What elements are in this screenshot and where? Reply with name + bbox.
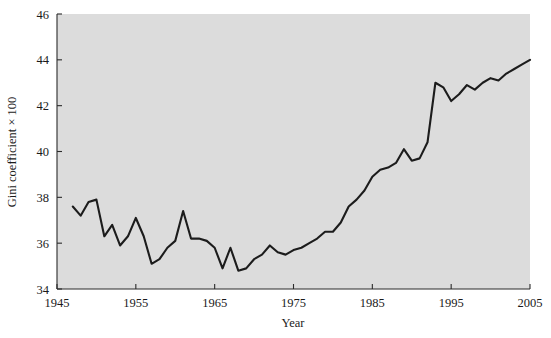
y-tick-label: 40 xyxy=(37,145,50,159)
chart-figure: 34363840424446 1945195519651975198519952… xyxy=(0,0,551,338)
y-tick-label: 46 xyxy=(37,8,50,22)
x-tick-label: 1965 xyxy=(202,296,227,310)
x-tick-label: 1985 xyxy=(360,296,385,310)
x-tick-label: 1975 xyxy=(281,296,306,310)
y-axis-title: Gini coefficient × 100 xyxy=(5,97,19,208)
y-tick-label: 38 xyxy=(37,191,50,205)
y-tick-label: 36 xyxy=(37,237,50,251)
x-tick-label: 1945 xyxy=(45,296,70,310)
x-tick-label: 2005 xyxy=(518,296,543,310)
x-tick-label: 1955 xyxy=(123,296,148,310)
gini-coefficient-line-chart: 34363840424446 1945195519651975198519952… xyxy=(0,0,551,338)
y-tick-label: 34 xyxy=(37,283,50,297)
x-tick-label: 1995 xyxy=(439,296,464,310)
x-axis-title: Year xyxy=(281,316,305,330)
y-tick-label: 44 xyxy=(37,53,50,67)
plot-area-background xyxy=(57,14,530,289)
y-tick-label: 42 xyxy=(37,99,50,113)
